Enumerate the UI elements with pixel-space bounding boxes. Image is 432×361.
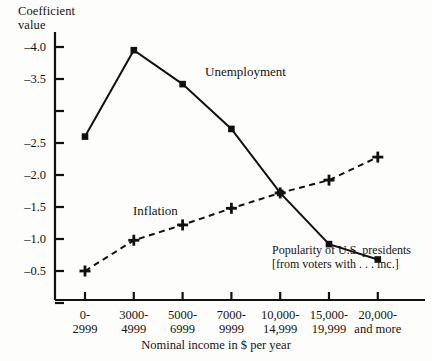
series-label-unemployment: Unemployment [205, 64, 286, 80]
chart-annotation: Popularity of U.S. presidents [from vote… [272, 243, 411, 271]
data-point-marker [128, 235, 139, 246]
data-point-marker [228, 126, 235, 133]
data-point-marker [324, 175, 335, 186]
chart-figure: Coefficient value –4.0–3.5–2.5–2.0–1.5–1… [0, 0, 432, 361]
data-point-marker [226, 203, 237, 214]
data-point-marker [179, 81, 186, 88]
x-axis-title: Nominal income in $ per year [141, 338, 291, 353]
series-line-unemployment [85, 50, 378, 259]
data-point-marker [131, 47, 138, 54]
data-point-marker [372, 152, 383, 163]
plot-area [0, 0, 432, 361]
data-point-marker [82, 133, 89, 140]
data-point-marker [177, 219, 188, 230]
series-label-inflation: Inflation [133, 203, 178, 219]
data-point-marker [80, 266, 91, 277]
